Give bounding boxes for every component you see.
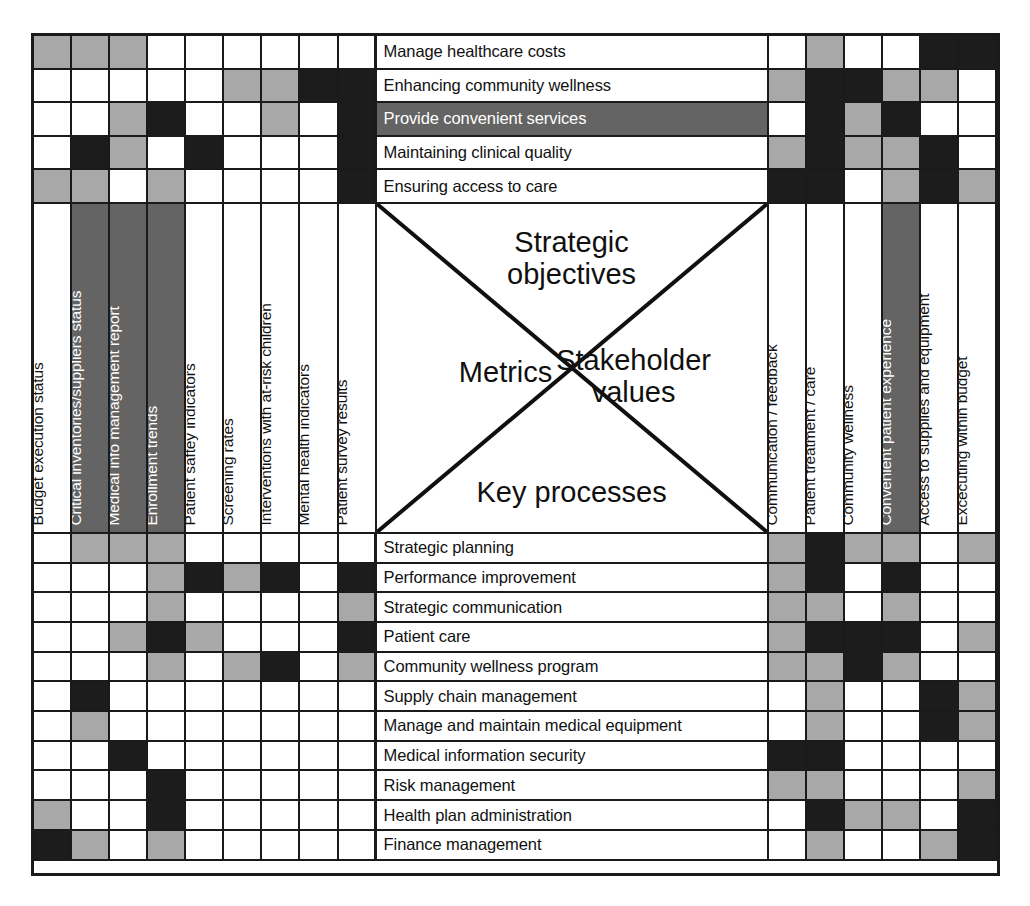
- matrix-cell[interactable]: [921, 534, 959, 564]
- matrix-cell[interactable]: [148, 70, 186, 104]
- matrix-cell[interactable]: [72, 801, 110, 831]
- matrix-cell[interactable]: [34, 36, 72, 70]
- matrix-cell[interactable]: [883, 831, 921, 861]
- matrix-cell[interactable]: [148, 801, 186, 831]
- matrix-cell[interactable]: [339, 534, 377, 564]
- matrix-cell[interactable]: [186, 170, 224, 204]
- matrix-cell[interactable]: [186, 712, 224, 742]
- matrix-cell[interactable]: [110, 831, 148, 861]
- matrix-cell[interactable]: [110, 623, 148, 653]
- matrix-cell[interactable]: [339, 70, 377, 104]
- matrix-cell[interactable]: [769, 103, 807, 137]
- matrix-cell[interactable]: [883, 534, 921, 564]
- matrix-cell[interactable]: [921, 564, 959, 594]
- matrix-cell[interactable]: [34, 70, 72, 104]
- matrix-cell[interactable]: [807, 593, 845, 623]
- matrix-cell[interactable]: [262, 682, 300, 712]
- matrix-cell[interactable]: [186, 36, 224, 70]
- matrix-cell[interactable]: [300, 623, 338, 653]
- matrix-cell[interactable]: [883, 653, 921, 683]
- matrix-cell[interactable]: [148, 36, 186, 70]
- matrix-cell[interactable]: [34, 137, 72, 171]
- matrix-cell[interactable]: [921, 801, 959, 831]
- matrix-cell[interactable]: [262, 36, 300, 70]
- matrix-cell[interactable]: [186, 534, 224, 564]
- matrix-cell[interactable]: [224, 593, 262, 623]
- matrix-cell[interactable]: [110, 771, 148, 801]
- matrix-cell[interactable]: [110, 137, 148, 171]
- matrix-cell[interactable]: [186, 137, 224, 171]
- matrix-cell[interactable]: [186, 831, 224, 861]
- matrix-cell[interactable]: [186, 103, 224, 137]
- matrix-cell[interactable]: [110, 564, 148, 594]
- matrix-cell[interactable]: [845, 593, 883, 623]
- matrix-cell[interactable]: [339, 742, 377, 772]
- matrix-cell[interactable]: [845, 712, 883, 742]
- matrix-cell[interactable]: [72, 682, 110, 712]
- matrix-cell[interactable]: [300, 593, 338, 623]
- matrix-cell[interactable]: [34, 593, 72, 623]
- matrix-cell[interactable]: [186, 564, 224, 594]
- matrix-cell[interactable]: [148, 831, 186, 861]
- matrix-cell[interactable]: [72, 534, 110, 564]
- matrix-cell[interactable]: [224, 831, 262, 861]
- matrix-cell[interactable]: [186, 771, 224, 801]
- matrix-cell[interactable]: [959, 593, 997, 623]
- matrix-cell[interactable]: [186, 623, 224, 653]
- matrix-cell[interactable]: [110, 801, 148, 831]
- matrix-cell[interactable]: [262, 623, 300, 653]
- matrix-cell[interactable]: [921, 682, 959, 712]
- matrix-cell[interactable]: [807, 36, 845, 70]
- matrix-cell[interactable]: [921, 170, 959, 204]
- matrix-cell[interactable]: [34, 801, 72, 831]
- matrix-cell[interactable]: [769, 682, 807, 712]
- matrix-cell[interactable]: [769, 712, 807, 742]
- matrix-cell[interactable]: [845, 137, 883, 171]
- matrix-cell[interactable]: [110, 103, 148, 137]
- matrix-cell[interactable]: [300, 831, 338, 861]
- matrix-cell[interactable]: [224, 742, 262, 772]
- matrix-cell[interactable]: [72, 170, 110, 204]
- matrix-cell[interactable]: [921, 712, 959, 742]
- matrix-cell[interactable]: [769, 771, 807, 801]
- matrix-cell[interactable]: [148, 137, 186, 171]
- matrix-cell[interactable]: [807, 170, 845, 204]
- matrix-cell[interactable]: [186, 593, 224, 623]
- matrix-cell[interactable]: [845, 534, 883, 564]
- matrix-cell[interactable]: [224, 36, 262, 70]
- matrix-cell[interactable]: [921, 137, 959, 171]
- matrix-cell[interactable]: [148, 593, 186, 623]
- matrix-cell[interactable]: [262, 564, 300, 594]
- matrix-cell[interactable]: [224, 653, 262, 683]
- matrix-cell[interactable]: [34, 653, 72, 683]
- matrix-cell[interactable]: [959, 70, 997, 104]
- matrix-cell[interactable]: [110, 170, 148, 204]
- matrix-cell[interactable]: [883, 771, 921, 801]
- matrix-cell[interactable]: [921, 593, 959, 623]
- matrix-cell[interactable]: [300, 682, 338, 712]
- matrix-cell[interactable]: [110, 742, 148, 772]
- matrix-cell[interactable]: [148, 771, 186, 801]
- matrix-cell[interactable]: [72, 103, 110, 137]
- matrix-cell[interactable]: [34, 771, 72, 801]
- matrix-cell[interactable]: [845, 103, 883, 137]
- matrix-cell[interactable]: [845, 771, 883, 801]
- matrix-cell[interactable]: [959, 831, 997, 861]
- matrix-cell[interactable]: [186, 682, 224, 712]
- matrix-cell[interactable]: [262, 801, 300, 831]
- matrix-cell[interactable]: [262, 771, 300, 801]
- matrix-cell[interactable]: [959, 36, 997, 70]
- matrix-cell[interactable]: [224, 137, 262, 171]
- matrix-cell[interactable]: [807, 712, 845, 742]
- matrix-cell[interactable]: [300, 564, 338, 594]
- matrix-cell[interactable]: [845, 36, 883, 70]
- matrix-cell[interactable]: [339, 593, 377, 623]
- matrix-cell[interactable]: [300, 801, 338, 831]
- matrix-cell[interactable]: [186, 653, 224, 683]
- matrix-cell[interactable]: [224, 170, 262, 204]
- matrix-cell[interactable]: [845, 170, 883, 204]
- matrix-cell[interactable]: [148, 103, 186, 137]
- matrix-cell[interactable]: [883, 682, 921, 712]
- matrix-cell[interactable]: [339, 653, 377, 683]
- matrix-cell[interactable]: [186, 742, 224, 772]
